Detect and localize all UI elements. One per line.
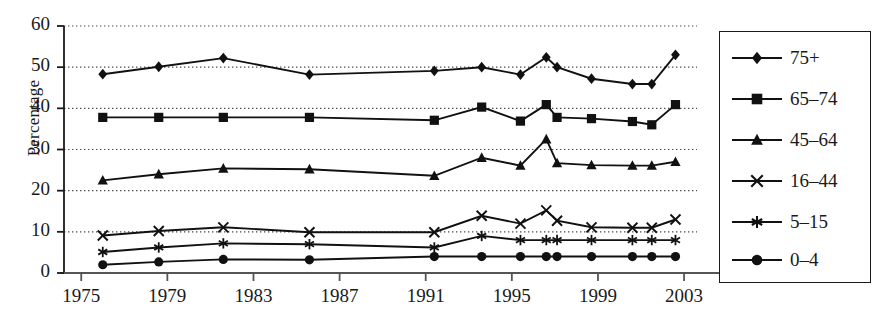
y-tick-label: 60 — [14, 13, 50, 35]
data-point-square — [154, 113, 163, 122]
legend-label: 65–74 — [790, 88, 838, 110]
data-point-x — [541, 205, 551, 215]
data-point-triangle — [670, 156, 680, 166]
data-point-circle — [552, 252, 561, 261]
data-point-square — [430, 116, 439, 125]
data-point-circle — [430, 252, 439, 261]
data-point-square — [647, 120, 656, 129]
y-tick-label: 20 — [14, 178, 50, 200]
legend-marker-x-icon — [730, 169, 784, 193]
data-point-circle — [516, 252, 525, 261]
data-point-circle — [752, 255, 763, 266]
legend-item-65-74: 65–74 — [730, 87, 838, 111]
data-point-square — [671, 100, 680, 109]
legend-label: 0–4 — [790, 249, 819, 271]
data-point-square — [98, 113, 107, 122]
chart-legend: 75+65–7445–6416–445–150–4 — [719, 31, 871, 283]
x-tick-label: 1987 — [305, 285, 375, 307]
legend-marker-square-icon — [730, 87, 784, 111]
data-point-diamond — [219, 53, 228, 64]
data-point-circle — [542, 252, 551, 261]
data-point-square — [542, 100, 551, 109]
data-point-square — [516, 116, 525, 125]
y-tick-label: 30 — [14, 137, 50, 159]
legend-marker-asterisk-icon — [730, 210, 784, 234]
data-point-diamond — [587, 73, 596, 84]
y-tick-label: 10 — [14, 219, 50, 241]
data-point-circle — [628, 252, 637, 261]
data-point-triangle — [477, 152, 487, 162]
data-point-diamond — [752, 52, 762, 64]
x-tick-label: 1995 — [477, 285, 547, 307]
y-tick-label: 0 — [14, 260, 50, 282]
data-point-circle — [647, 252, 656, 261]
data-point-diamond — [98, 69, 107, 80]
legend-item-0-4: 0–4 — [730, 248, 819, 272]
data-point-circle — [98, 260, 107, 269]
legend-marker-circle-icon — [730, 248, 784, 272]
x-tick-label: 1991 — [391, 285, 461, 307]
legend-label: 75+ — [790, 47, 820, 69]
data-point-square — [552, 113, 561, 122]
chart-figure: Percentage 75+65–7445–6416–445–150–4 010… — [0, 0, 885, 318]
data-point-x — [670, 214, 680, 224]
data-point-diamond — [305, 69, 314, 80]
data-point-square — [587, 114, 596, 123]
x-tick-label: 1979 — [132, 285, 202, 307]
data-point-square — [628, 117, 637, 126]
data-point-diamond — [477, 62, 486, 73]
data-point-circle — [154, 257, 163, 266]
legend-label: 45–64 — [790, 129, 838, 151]
legend-label: 16–44 — [790, 170, 838, 192]
data-point-circle — [587, 252, 596, 261]
data-point-circle — [477, 252, 486, 261]
series-line — [103, 139, 676, 180]
x-tick-label: 1999 — [563, 285, 633, 307]
data-point-square — [305, 113, 314, 122]
data-point-circle — [671, 252, 680, 261]
data-point-diamond — [430, 65, 439, 76]
legend-item-16-44: 16–44 — [730, 169, 838, 193]
legend-label: 5–15 — [790, 211, 828, 233]
legend-marker-diamond-icon — [730, 46, 784, 70]
data-point-diamond — [516, 69, 525, 80]
legend-item-45-64: 45–64 — [730, 128, 838, 152]
data-point-square — [219, 113, 228, 122]
data-point-diamond — [628, 79, 637, 90]
x-tick-label: 1975 — [46, 285, 116, 307]
data-point-circle — [219, 255, 228, 264]
data-point-square — [477, 102, 486, 111]
data-point-square — [752, 94, 763, 105]
legend-item-5-15: 5–15 — [730, 210, 828, 234]
data-point-triangle — [541, 134, 551, 144]
x-tick-label: 1983 — [218, 285, 288, 307]
data-point-diamond — [154, 61, 163, 72]
x-tick-label: 2003 — [649, 285, 719, 307]
y-tick-label: 50 — [14, 54, 50, 76]
data-point-circle — [305, 255, 314, 264]
legend-marker-triangle-icon — [730, 128, 784, 152]
legend-item-75+: 75+ — [730, 46, 820, 70]
y-tick-label: 40 — [14, 95, 50, 117]
